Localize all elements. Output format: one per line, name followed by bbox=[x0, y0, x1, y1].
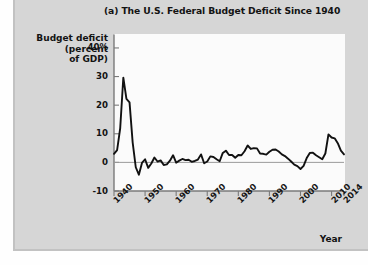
data-series-layer bbox=[114, 78, 344, 175]
chart-svg bbox=[0, 0, 368, 265]
y-tick-label: 20 bbox=[66, 100, 108, 110]
deficit-line-series bbox=[114, 78, 344, 175]
x-axis-title: Year bbox=[290, 234, 342, 244]
y-tick-label: 30 bbox=[66, 71, 108, 81]
y-tick-label: 0 bbox=[66, 157, 108, 167]
y-tick-label: -10 bbox=[66, 186, 108, 196]
figure-container: (a) The U.S. Federal Budget Deficit Sinc… bbox=[0, 0, 368, 265]
y-tick-label: 40% bbox=[66, 42, 108, 52]
axis-layer bbox=[114, 35, 344, 197]
y-tick-label: 10 bbox=[66, 128, 108, 138]
